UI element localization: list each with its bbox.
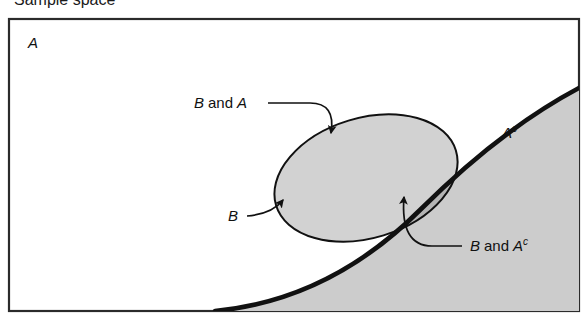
label-b: B (228, 207, 238, 224)
label-b-and-a-complement: BandAc (470, 236, 528, 254)
label-a: A (27, 34, 38, 51)
figure-root: Sample space A (0, 0, 588, 328)
set-diagram-svg: A Ac BandA B BandAc (0, 0, 588, 328)
label-b-and-a: BandA (194, 94, 247, 111)
